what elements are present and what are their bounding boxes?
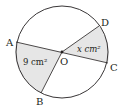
- label-o: O: [60, 56, 68, 67]
- center-point: [61, 51, 64, 54]
- sector-doc-area: x cm²: [77, 44, 101, 54]
- sector-aob-area: 9 cm²: [23, 57, 47, 67]
- sector-aob: [15, 42, 62, 93]
- label-c: C: [110, 62, 118, 73]
- label-b: B: [36, 96, 43, 107]
- label-a: A: [5, 37, 14, 48]
- circle-diagram: A B C D O 9 cm² x cm²: [0, 0, 128, 111]
- label-d: D: [101, 17, 109, 28]
